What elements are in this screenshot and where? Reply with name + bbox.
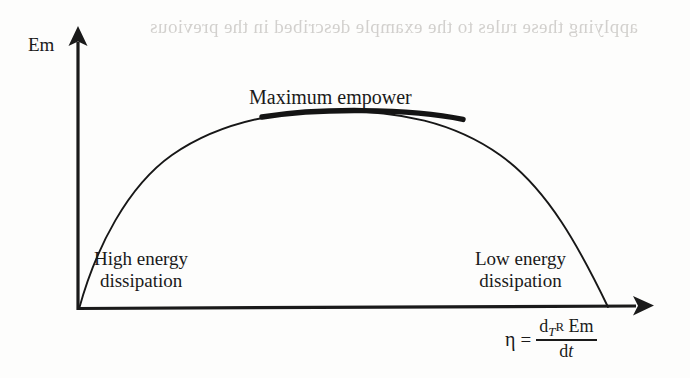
empower-curve-peak-emphasis xyxy=(262,111,463,120)
y-axis xyxy=(69,26,88,310)
x-axis-line xyxy=(77,306,636,309)
low-energy-dissipation-label: Low energy dissipation xyxy=(475,248,566,293)
equation-numerator-d: d xyxy=(539,316,548,336)
x-axis xyxy=(77,296,654,316)
y-axis-label: Em xyxy=(28,34,54,56)
equation-fraction: dTR Em dt xyxy=(536,317,596,361)
equation-denominator-t: t xyxy=(568,341,573,361)
high-energy-dissipation-label: High energy dissipation xyxy=(94,248,188,293)
low-energy-dissipation-line1: Low energy xyxy=(475,248,566,270)
figure-canvas: applying these rules to the example desc… xyxy=(0,0,690,378)
high-energy-dissipation-line1: High energy xyxy=(94,248,188,270)
equation-denominator: dt xyxy=(556,341,576,361)
low-energy-dissipation-line2: dissipation xyxy=(475,270,566,292)
equation-equals: = xyxy=(520,329,531,351)
arrow-right-icon xyxy=(633,296,654,316)
high-energy-dissipation-line2: dissipation xyxy=(94,270,188,292)
equation-numerator-em: Em xyxy=(569,316,594,336)
maximum-empower-label: Maximum empower xyxy=(249,86,412,110)
x-axis-equation: η = dTR Em dt xyxy=(505,318,597,362)
equation-denominator-d: d xyxy=(559,341,568,361)
equation-numerator: dTR Em xyxy=(536,317,596,339)
equation-eta: η xyxy=(505,328,515,352)
equation-numerator-superscript: R xyxy=(555,319,564,334)
